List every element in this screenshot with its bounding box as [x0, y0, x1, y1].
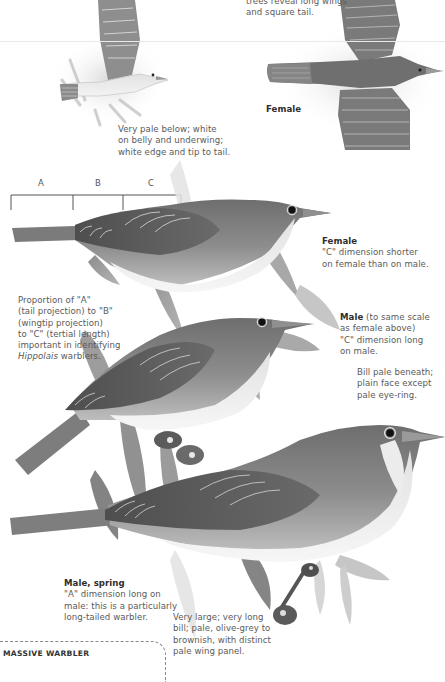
- caption-size-bill: Very large; very long bill; pale, olive-…: [173, 612, 271, 657]
- caption-line: brownish, with distinct: [173, 635, 271, 646]
- caption-line: to "C" (tertial length): [18, 329, 121, 340]
- caption-line: pale wing panel.: [173, 646, 271, 657]
- bracket-label-c: C: [148, 178, 154, 188]
- caption-male-spring: Male, spring "A" dimension long on male:…: [64, 578, 177, 623]
- perched-bird-male-spring: [10, 425, 445, 562]
- bracket-label-a: A: [38, 178, 44, 188]
- caption-flight-top: trees reveal long wings and square tail.: [246, 0, 347, 19]
- caption-line: (tail projection) to "B": [18, 306, 121, 317]
- label-female-flight: Female: [266, 104, 301, 114]
- caption-line: Proportion of "A": [18, 295, 121, 306]
- caption-line: bill; pale, olive-grey to: [173, 623, 271, 634]
- caption-flight-underside: Very pale below; white on belly and unde…: [118, 124, 230, 158]
- caption-line: "A" dimension long on: [64, 589, 177, 600]
- caption-line: trees reveal long wings: [246, 0, 347, 7]
- caption-line: "C" dimension shorter: [322, 247, 429, 258]
- caption-bill: Bill pale beneath; plain face except pal…: [357, 367, 433, 401]
- caption-line: and square tail.: [246, 7, 347, 18]
- info-box: [0, 641, 166, 682]
- caption-perched-female: Female "C" dimension shorter on female t…: [322, 236, 429, 270]
- caption-line: as female above): [340, 323, 430, 334]
- caption-flight-female: Female: [266, 104, 301, 115]
- label-male-spring: Male, spring: [64, 578, 125, 588]
- caption-proportion: Proportion of "A" (tail projection) to "…: [18, 295, 121, 363]
- flying-bird-underside: [50, 0, 170, 125]
- caption-line: plain face except: [357, 378, 433, 389]
- caption-male: Male (to same scale as female above) "C"…: [340, 312, 430, 357]
- section-divider: [0, 41, 445, 42]
- genus-name: Hippolais: [18, 351, 58, 361]
- caption-line: on female than on male.: [322, 259, 429, 270]
- caption-line: on belly and underwing;: [118, 135, 230, 146]
- bracket-label-b: B: [95, 178, 101, 188]
- label-female-perched: Female: [322, 236, 357, 246]
- caption-line: Very pale below; white: [118, 124, 230, 135]
- caption-line: important in identifying: [18, 340, 121, 351]
- caption-line: male: this is a particularly: [64, 601, 177, 612]
- caption-line: warblers.: [58, 351, 101, 361]
- caption-line: long-tailed warbler.: [64, 612, 177, 623]
- caption-line: (wingtip projection): [18, 318, 121, 329]
- caption-line: Very large; very long: [173, 612, 271, 623]
- caption-line: (to same scale: [363, 312, 429, 322]
- flying-bird-upperside: [267, 0, 445, 150]
- caption-line: Bill pale beneath;: [357, 367, 433, 378]
- caption-line: white edge and tip to tail.: [118, 147, 230, 158]
- caption-line: pale eye-ring.: [357, 390, 433, 401]
- label-male: Male: [340, 312, 363, 322]
- caption-line: "C" dimension long: [340, 335, 430, 346]
- caption-line: on male.: [340, 346, 430, 357]
- info-box-title: MASSIVE WARBLER: [3, 649, 89, 658]
